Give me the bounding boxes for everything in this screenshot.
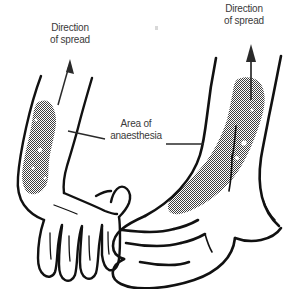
arrow-direction-hand (58, 59, 74, 105)
label-line-2: anaesthesia (98, 130, 174, 142)
foot-anaesthesia-shading (160, 70, 272, 220)
label-line-2: of spread (196, 15, 292, 27)
label-direction-of-spread-foot: Direction of spread (196, 3, 292, 27)
label-area-of-anaesthesia: Area of anaesthesia (98, 118, 174, 142)
label-line-1: Direction (22, 22, 118, 34)
label-line-1: Area of (98, 118, 174, 130)
anaesthesia-diagram: Direction of spread Direction of spread … (0, 0, 296, 289)
label-line-2: of spread (22, 34, 118, 46)
label-line-1: Direction (196, 3, 292, 15)
foot-figure (113, 56, 281, 288)
label-direction-of-spread-hand: Direction of spread (22, 22, 118, 46)
scan-artifact-speck (155, 26, 158, 30)
